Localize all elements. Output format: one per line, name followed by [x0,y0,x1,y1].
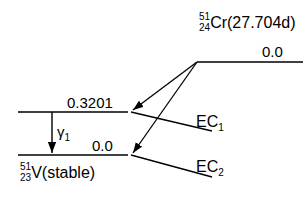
parent-level-energy-label: 0.0 [262,44,283,59]
parent-symbol: Cr [210,15,227,31]
parent-mass-number: 51 [199,12,210,23]
daughter-mass-number: 51 [20,162,31,173]
daughter-excited-energy-label: 0.3201 [67,95,113,110]
ec2-index: 2 [218,167,224,178]
ec2-transition-arrow [133,62,197,153]
daughter-atomic-number: 23 [20,173,31,184]
ec1-index: 1 [218,122,224,133]
daughter-nuclide-label: 51 23 V(stable) [20,162,95,183]
ec2-text: EC [196,158,218,175]
daughter-stability: (stable) [42,165,95,181]
ec1-label: EC1 [196,114,224,130]
parent-nuclide-label: 51 24 Cr(27.704d) [199,12,296,33]
gamma-symbol: γ [57,123,65,140]
daughter-ground-energy-label: 0.0 [92,138,113,153]
ec1-transition-arrow [133,62,197,110]
parent-atomic-number: 24 [199,23,210,34]
gamma-transition-label: γ1 [57,124,70,139]
ec1-text: EC [196,113,218,130]
daughter-isotope-numbers: 51 23 [20,162,31,183]
ec2-label: EC2 [196,159,224,175]
parent-isotope-numbers: 51 24 [199,12,210,33]
gamma-index: 1 [65,132,71,143]
daughter-symbol: V [31,165,42,181]
parent-halflife: (27.704d) [227,15,296,31]
decay-scheme-diagram: 51 24 Cr(27.704d) 0.0 0.3201 0.0 γ1 EC1 … [0,0,303,203]
